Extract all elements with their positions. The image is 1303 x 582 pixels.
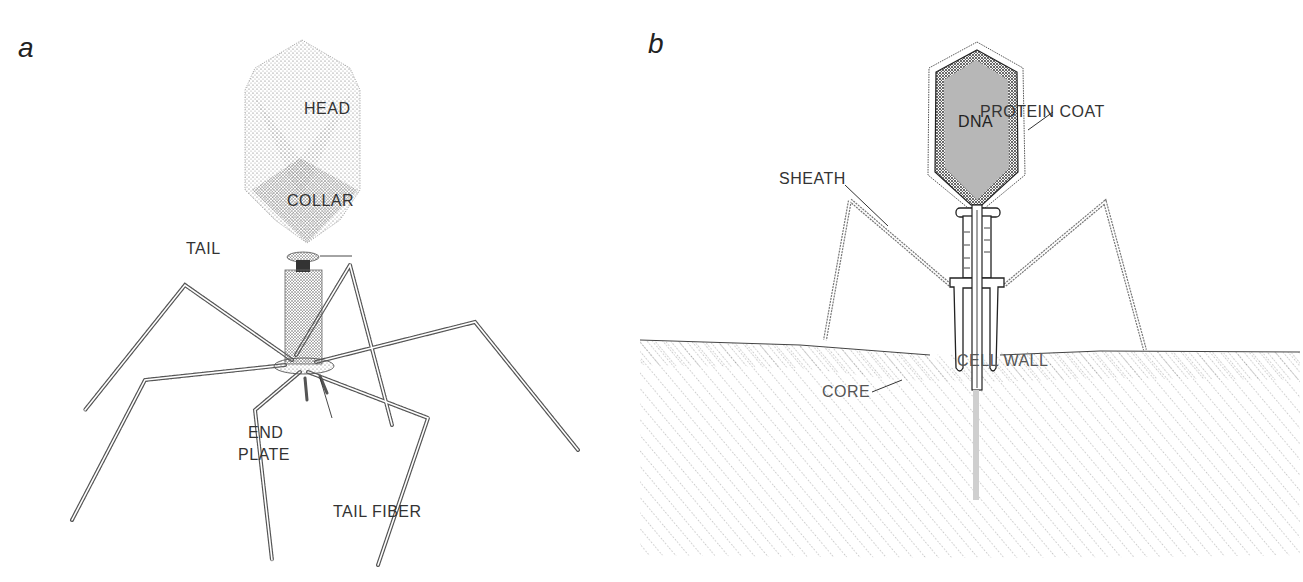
label-protein-coat: PROTEIN COAT [980,103,1105,121]
label-tail-fiber: TAIL FIBER [333,503,422,521]
tail [285,270,322,364]
panel-letter-b: b [648,28,664,60]
end-plate [274,358,334,374]
label-core: CORE [822,383,870,401]
label-cell-wall: CELL WALL [957,352,1048,370]
label-collar: COLLAR [287,192,354,210]
injected-dna [973,390,979,500]
figure-canvas [0,0,1303,582]
label-end-plate-line1: END [248,424,283,442]
label-end-plate-line2: PLATE [238,446,290,464]
panel-letter-a: a [18,32,34,64]
label-head: HEAD [304,100,350,118]
label-tail: TAIL [186,240,221,258]
label-sheath: SHEATH [779,170,846,188]
phage-illustration-a [72,40,578,565]
